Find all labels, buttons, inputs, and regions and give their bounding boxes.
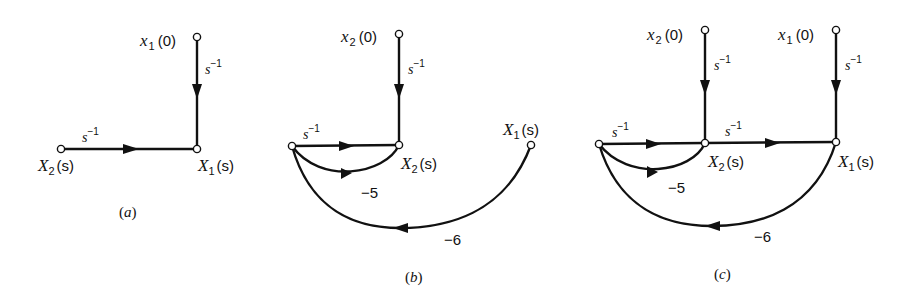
arrow-right-icon (646, 139, 661, 149)
arrow-left-icon (647, 166, 658, 178)
node-X1-s (193, 145, 200, 152)
label-x1-0: x1(0) (777, 25, 814, 46)
arrow-left-icon (393, 223, 408, 233)
gain-label-minus6: −6 (444, 231, 461, 248)
arrow-down-icon (394, 84, 404, 99)
arrow-right-icon (765, 138, 780, 148)
node-X1-s (832, 138, 839, 145)
caption-c: (c) (714, 266, 731, 283)
node-x2-0 (701, 26, 708, 33)
arrow-right-icon (123, 144, 139, 154)
gain-label-minus5: −5 (668, 179, 685, 196)
arrow-left-icon (341, 168, 352, 179)
gain-label-s-inv: s−1 (714, 54, 731, 73)
node-X2-s (395, 141, 402, 148)
gain-label-s-inv: s−1 (408, 58, 425, 77)
edge-feedback-minus6 (292, 145, 531, 228)
gain-label-s-inv: s−1 (303, 123, 320, 142)
node-X2-s (701, 139, 708, 146)
caption-b: (b) (405, 269, 423, 286)
node-X1-s (527, 141, 534, 148)
node-x2-0 (395, 30, 402, 37)
edge-feedback-minus5 (292, 145, 399, 172)
arrow-down-icon (831, 80, 841, 95)
gain-label-s-inv: s−1 (82, 126, 99, 145)
label-X1-s: X1(s) (837, 152, 874, 173)
arrow-right-icon (339, 141, 354, 151)
gain-label-minus5: −5 (361, 184, 378, 201)
caption-a: (a) (119, 204, 137, 221)
node-x1-0 (193, 33, 200, 40)
node-sX2 (288, 142, 295, 149)
gain-label-minus6: −6 (754, 228, 771, 245)
panel-c: x2(0) x1(0) s−1 s−1 s−1 s−1 −5 −6 X2(s) … (595, 25, 874, 283)
node-sX2 (595, 140, 602, 147)
node-X2-s (57, 145, 64, 152)
label-X1-s: X1(s) (197, 156, 234, 177)
label-x2-0: x2(0) (340, 27, 377, 48)
gain-label-s-inv: s−1 (205, 58, 222, 77)
arrow-down-icon (700, 80, 710, 95)
label-X2-s: X2(s) (400, 154, 437, 175)
arrow-down-icon (192, 84, 202, 99)
label-X2-s: X2(s) (37, 156, 74, 177)
panel-b: x2(0) s−1 s−1 −5 −6 X2(s) X1(s) (b) (288, 27, 539, 286)
node-x1-0 (832, 26, 839, 33)
label-x2-0: x2(0) (646, 25, 683, 46)
panel-a: x1(0) s−1 s−1 X2(s) X1(s) (a) (37, 31, 234, 221)
label-x1-0: x1(0) (139, 31, 176, 52)
signal-flow-graph-figure: x1(0) s−1 s−1 X2(s) X1(s) (a) (0, 0, 913, 301)
gain-label-s-inv: s−1 (725, 120, 742, 139)
gain-label-s-inv: s−1 (845, 54, 862, 73)
label-X1-s: X1(s) (502, 120, 539, 141)
arrow-left-icon (705, 221, 720, 231)
gain-label-s-inv: s−1 (612, 121, 629, 140)
label-X2-s: X2(s) (707, 152, 744, 173)
